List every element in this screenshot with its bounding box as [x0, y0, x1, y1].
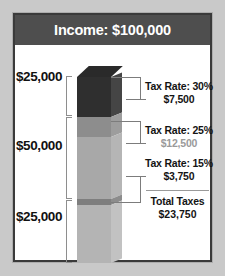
axis-label-middle: $50,000 — [16, 138, 62, 153]
leader-line-25-vert — [140, 121, 141, 143]
leader-line-15-bottom — [111, 202, 141, 203]
bar-segment-15-side — [111, 201, 122, 263]
leader-line-15-vert — [140, 176, 141, 203]
bar-segment-25-side — [111, 133, 122, 199]
total-taxes-block: Total Taxes $23,750 — [146, 195, 209, 220]
title-bar: Income: $100,000 — [15, 15, 210, 45]
leader-line-15-top — [126, 176, 146, 177]
bar-segment-30 — [77, 77, 111, 117]
total-taxes-label: Total Taxes — [146, 195, 209, 207]
callout-25-rate: Tax Rate: 25% — [145, 124, 213, 136]
bracket-bottom — [66, 200, 72, 263]
leader-line-25-top — [111, 121, 141, 122]
callout-15-amount: $3,750 — [145, 170, 213, 182]
chart-plot-area: $25,000 $50,000 $25,000 — [15, 45, 210, 260]
callout-25: Tax Rate: 25% $12,500 — [145, 124, 213, 149]
callout-30-rate: Tax Rate: 30% — [145, 80, 213, 92]
callout-30-amount: $7,500 — [145, 93, 213, 105]
total-taxes-amount: $23,750 — [146, 208, 209, 220]
bracket-top — [66, 76, 72, 116]
bar-segment-30-side — [111, 73, 122, 117]
page-title: Income: $100,000 — [54, 22, 171, 38]
total-divider — [146, 190, 209, 191]
infographic-card: Income: $100,000 $25,000 $50,000 $25,000 — [13, 13, 212, 262]
leader-line-30-top — [111, 77, 141, 78]
bar-segment-15 — [77, 205, 111, 263]
callout-15: Tax Rate: 15% $3,750 — [145, 157, 213, 182]
axis-label-bottom: $25,000 — [16, 209, 62, 224]
callout-15-rate: Tax Rate: 15% — [145, 157, 213, 169]
callout-30: Tax Rate: 30% $7,500 — [145, 80, 213, 105]
axis-label-top: $25,000 — [16, 69, 62, 84]
callout-25-amount: $12,500 — [145, 137, 213, 149]
leader-line-30-bottom — [126, 99, 146, 100]
bracket-middle — [66, 117, 72, 199]
leader-line-30-vert — [140, 77, 141, 99]
bar-segment-25-upper — [77, 117, 111, 137]
bar-segment-25 — [77, 137, 111, 199]
stacked-bar-3d — [77, 45, 125, 265]
leader-line-25-bottom — [126, 143, 146, 144]
